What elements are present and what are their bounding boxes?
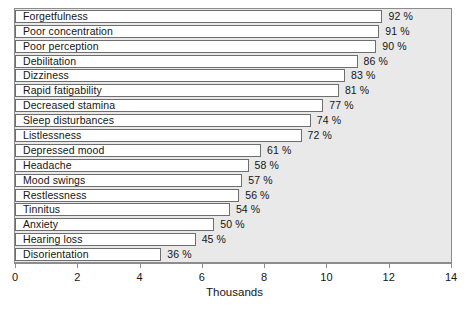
category-label: Headache bbox=[23, 159, 72, 172]
value-label: 92 % bbox=[388, 10, 412, 23]
x-axis-tick bbox=[326, 263, 327, 268]
bar-row: Listlessness72 % bbox=[15, 129, 451, 142]
category-label: Debilitation bbox=[23, 55, 76, 68]
category-label: Depressed mood bbox=[23, 144, 104, 157]
x-axis-tick-label: 12 bbox=[383, 271, 395, 283]
value-label: 86 % bbox=[364, 55, 388, 68]
bar-row: Poor concentration91 % bbox=[15, 25, 451, 38]
bar-row: Tinnitus54 % bbox=[15, 203, 451, 216]
category-label: Tinnitus bbox=[23, 203, 60, 216]
bar-row: Anxiety50 % bbox=[15, 218, 451, 231]
x-axis-title: Thousands bbox=[0, 286, 469, 298]
value-label: 57 % bbox=[248, 174, 272, 187]
value-label: 50 % bbox=[220, 218, 244, 231]
value-label: 72 % bbox=[308, 129, 332, 142]
value-label: 61 % bbox=[267, 144, 291, 157]
x-axis-tick-label: 6 bbox=[199, 271, 205, 283]
x-axis-tick bbox=[140, 263, 141, 268]
bar-row: Sleep disturbances74 % bbox=[15, 114, 451, 127]
category-label: Sleep disturbances bbox=[23, 114, 114, 127]
x-axis-tick bbox=[264, 263, 265, 268]
x-axis: 02468101214 bbox=[14, 263, 452, 264]
bar-row: Rapid fatigability81 % bbox=[15, 84, 451, 97]
bar-row: Depressed mood61 % bbox=[15, 144, 451, 157]
x-axis-tick-label: 2 bbox=[74, 271, 80, 283]
x-axis-tick-label: 14 bbox=[445, 271, 457, 283]
category-label: Restlessness bbox=[23, 189, 87, 202]
bar-row: Debilitation86 % bbox=[15, 55, 451, 68]
value-label: 56 % bbox=[245, 189, 269, 202]
bars-layer: Forgetfulness92 %Poor concentration91 %P… bbox=[15, 9, 451, 262]
x-axis-tick bbox=[77, 263, 78, 268]
bar-row: Poor perception90 % bbox=[15, 40, 451, 53]
bar-row: Dizziness83 % bbox=[15, 69, 451, 82]
value-label: 81 % bbox=[345, 84, 369, 97]
plot-area: Forgetfulness92 %Poor concentration91 %P… bbox=[14, 8, 452, 263]
category-label: Decreased stamina bbox=[23, 99, 115, 112]
bar-row: Forgetfulness92 % bbox=[15, 10, 451, 23]
bar-row: Headache58 % bbox=[15, 159, 451, 172]
category-label: Dizziness bbox=[23, 69, 69, 82]
bar-row: Mood swings57 % bbox=[15, 174, 451, 187]
bar-row: Decreased stamina77 % bbox=[15, 99, 451, 112]
category-label: Forgetfulness bbox=[23, 10, 88, 23]
x-axis-tick bbox=[15, 263, 16, 268]
category-label: Hearing loss bbox=[23, 233, 83, 246]
category-label: Mood swings bbox=[23, 174, 85, 187]
bar-row: Disorientation36 % bbox=[15, 248, 451, 261]
bar-row: Restlessness56 % bbox=[15, 189, 451, 202]
category-label: Poor perception bbox=[23, 40, 99, 53]
value-label: 91 % bbox=[385, 25, 409, 38]
bar-row: Hearing loss45 % bbox=[15, 233, 451, 246]
category-label: Anxiety bbox=[23, 218, 58, 231]
value-label: 74 % bbox=[317, 114, 341, 127]
category-label: Disorientation bbox=[23, 248, 89, 261]
x-axis-tick bbox=[202, 263, 203, 268]
category-label: Listlessness bbox=[23, 129, 81, 142]
value-label: 54 % bbox=[236, 203, 260, 216]
value-label: 58 % bbox=[255, 159, 279, 172]
x-axis-tick-label: 0 bbox=[12, 271, 18, 283]
bar-chart: Forgetfulness92 %Poor concentration91 %P… bbox=[0, 0, 469, 311]
category-label: Rapid fatigability bbox=[23, 84, 102, 97]
category-label: Poor concentration bbox=[23, 25, 113, 38]
x-axis-tick-label: 4 bbox=[137, 271, 143, 283]
x-axis-tick bbox=[451, 263, 452, 268]
value-label: 90 % bbox=[382, 40, 406, 53]
value-label: 83 % bbox=[351, 69, 375, 82]
x-axis-tick-label: 8 bbox=[261, 271, 267, 283]
value-label: 36 % bbox=[167, 248, 191, 261]
x-axis-tick-label: 10 bbox=[320, 271, 332, 283]
value-label: 45 % bbox=[202, 233, 226, 246]
value-label: 77 % bbox=[329, 99, 353, 112]
x-axis-tick bbox=[389, 263, 390, 268]
